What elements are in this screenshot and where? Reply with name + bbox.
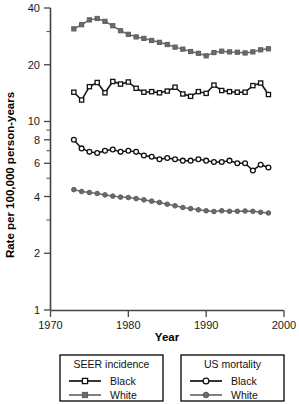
marker-open-circle	[204, 158, 209, 163]
series-3	[72, 187, 271, 215]
marker-filled-square	[204, 54, 208, 58]
legend-box-0: SEER incidenceBlackWhite	[60, 355, 163, 401]
marker-open-circle	[243, 161, 248, 166]
marker-filled-square	[259, 48, 263, 52]
marker-open-square	[80, 98, 84, 102]
marker-filled-circle	[188, 206, 193, 211]
legend-title: US mortality	[204, 358, 262, 370]
marker-filled-square	[126, 32, 130, 36]
marker-open-square	[134, 86, 138, 90]
marker-filled-square	[227, 50, 231, 54]
x-tick-label: 2000	[272, 319, 296, 331]
x-tick-label: 1970	[38, 319, 62, 331]
legend-entry-label: Black	[110, 375, 136, 387]
marker-open-square	[227, 90, 231, 94]
marker-open-circle	[134, 149, 139, 154]
y-tick-label: 8	[34, 134, 40, 146]
marker-open-circle	[118, 149, 123, 154]
legend-entry-label: White	[110, 389, 137, 401]
marker-filled-circle	[79, 189, 84, 194]
marker-filled-square	[103, 19, 107, 23]
chart-legend: SEER incidenceBlackWhiteUS mortalityBlac…	[60, 355, 284, 401]
marker-open-square	[181, 92, 185, 96]
marker-filled-circle	[157, 200, 162, 205]
y-tick-label: 4	[34, 191, 40, 203]
marker-filled-square	[243, 51, 247, 55]
marker-filled-square	[82, 392, 87, 397]
marker-filled-circle	[118, 195, 123, 200]
marker-filled-circle	[243, 209, 248, 214]
marker-filled-circle	[212, 209, 217, 214]
y-tick-label: 20	[28, 59, 40, 71]
marker-filled-square	[142, 36, 146, 40]
y-tick-label: 1	[34, 304, 40, 316]
marker-filled-square	[266, 47, 270, 51]
series-1	[72, 79, 271, 102]
marker-open-square	[243, 90, 247, 94]
marker-filled-circle	[134, 196, 139, 201]
marker-filled-square	[95, 16, 99, 20]
marker-open-square	[259, 81, 263, 85]
marker-open-square	[103, 91, 107, 95]
marker-open-circle	[266, 165, 271, 170]
marker-open-circle	[165, 156, 170, 161]
marker-open-square	[165, 89, 169, 93]
marker-open-square	[142, 90, 146, 94]
marker-filled-square	[165, 42, 169, 46]
marker-filled-circle	[110, 194, 115, 199]
marker-open-square	[150, 90, 154, 94]
marker-filled-square	[134, 35, 138, 39]
marker-filled-circle	[95, 191, 100, 196]
marker-open-circle	[203, 378, 209, 384]
marker-open-square	[196, 90, 200, 94]
marker-filled-circle	[266, 211, 271, 216]
x-axis-ticks: 1970198019902000	[38, 311, 296, 332]
x-tick-label: 1980	[116, 319, 140, 331]
legend-entry-label: White	[231, 389, 258, 401]
marker-open-square	[72, 90, 76, 94]
marker-filled-square	[173, 45, 177, 49]
y-tick-label: 6	[34, 157, 40, 169]
marker-open-circle	[196, 157, 201, 162]
marker-filled-square	[150, 38, 154, 42]
marker-filled-square	[181, 47, 185, 51]
marker-filled-square	[235, 50, 239, 54]
rate-trend-chart: 12468102040 1970198019902000 Year Rate p…	[0, 0, 299, 404]
marker-open-square	[111, 79, 115, 83]
marker-filled-square	[220, 49, 224, 53]
marker-open-circle	[87, 149, 92, 154]
marker-open-circle	[157, 157, 162, 162]
y-tick-label: 2	[34, 247, 40, 259]
marker-open-square	[87, 85, 91, 89]
x-tick-label: 1990	[194, 319, 218, 331]
marker-open-circle	[110, 147, 115, 152]
marker-open-circle	[250, 168, 255, 173]
marker-open-circle	[103, 148, 108, 153]
chart-series-group	[71, 16, 270, 215]
x-axis-title: Year	[155, 331, 180, 343]
marker-filled-square	[72, 27, 76, 31]
marker-filled-circle	[126, 195, 131, 200]
marker-open-circle	[219, 160, 224, 165]
marker-open-square	[266, 92, 270, 96]
marker-open-circle	[95, 151, 100, 156]
legend-box-1: US mortalityBlackWhite	[181, 355, 284, 401]
marker-open-circle	[258, 162, 263, 167]
marker-open-circle	[180, 158, 185, 163]
series-0	[72, 16, 271, 58]
marker-filled-circle	[251, 209, 256, 214]
marker-filled-square	[157, 40, 161, 44]
y-axis-title: Rate per 100,000 person-years	[4, 92, 16, 258]
marker-open-square	[204, 91, 208, 95]
marker-filled-square	[111, 24, 115, 28]
y-axis-ticks: 12468102040	[28, 2, 51, 316]
series-2	[71, 137, 270, 172]
marker-open-circle	[142, 153, 147, 158]
marker-open-square	[189, 94, 193, 98]
marker-open-square	[95, 80, 99, 84]
marker-open-square	[235, 90, 239, 94]
marker-open-circle	[173, 157, 178, 162]
marker-filled-circle	[196, 208, 201, 213]
marker-open-square	[212, 83, 216, 87]
marker-filled-circle	[87, 190, 92, 195]
